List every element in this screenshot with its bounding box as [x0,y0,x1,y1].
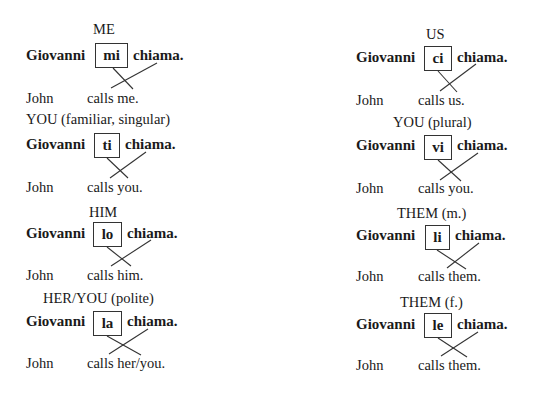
italian-subject: Giovanni [26,48,85,63]
block-label: HER/YOU (polite) [43,291,154,306]
english-verb: calls me. [87,91,139,106]
block-label: THEM (f.) [400,295,463,310]
italian-subject: Giovanni [356,138,415,153]
pronoun-to-object-line [113,68,133,89]
pronoun-box: vi [424,135,452,160]
italian-verb: chiama. [455,228,505,243]
italian-subject: Giovanni [356,228,415,243]
block-label: HIM [89,205,117,220]
english-verb: calls her/you. [87,356,165,371]
pronoun-to-object-line [107,158,128,178]
english-verb: calls them. [418,269,481,284]
english-verb: calls you. [418,181,474,196]
italian-verb: chiama. [457,317,507,332]
italian-verb: chiama. [127,314,177,329]
block-label: ME [93,22,115,37]
pronoun-box: mi [95,43,128,68]
english-subject: John [356,93,383,108]
block-label: YOU (plural) [393,115,472,130]
pronoun-box: ti [94,133,120,158]
italian-verb: chiama. [457,50,507,65]
pronoun-to-object-line [438,71,457,92]
pronoun-to-object-line [438,160,461,181]
block-label: US [426,27,445,42]
pronoun-box: lo [93,222,122,247]
english-subject: John [26,356,53,371]
pronoun-to-object-line [107,336,141,355]
italian-subject: Giovanni [356,317,415,332]
italian-verb: chiama. [125,137,175,152]
italian-subject: Giovanni [26,314,85,329]
english-verb: calls you. [87,180,143,195]
italian-subject: Giovanni [26,226,85,241]
italian-verb: chiama. [133,48,183,63]
english-subject: John [26,180,53,195]
english-subject: John [26,91,53,106]
verb-to-verb-line [447,243,479,268]
pronoun-box: ci [424,46,452,71]
english-verb: calls them. [418,358,481,373]
pronoun-box: la [93,311,122,336]
english-verb: calls him. [87,268,143,283]
pronoun-to-object-line [107,247,131,266]
block-label: THEM (m.) [397,206,466,221]
english-subject: John [356,181,383,196]
english-subject: John [26,268,53,283]
pronoun-to-object-line [438,338,467,357]
pronoun-box: li [425,225,450,250]
english-subject: John [356,358,383,373]
italian-verb: chiama. [127,226,177,241]
italian-subject: Giovanni [356,50,415,65]
block-label: YOU (familiar, singular) [26,112,170,127]
pronoun-box: le [424,313,452,338]
english-subject: John [356,269,383,284]
italian-verb: chiama. [457,138,507,153]
italian-subject: Giovanni [26,137,85,152]
pronoun-to-object-line [437,250,466,269]
english-verb: calls us. [418,93,465,108]
